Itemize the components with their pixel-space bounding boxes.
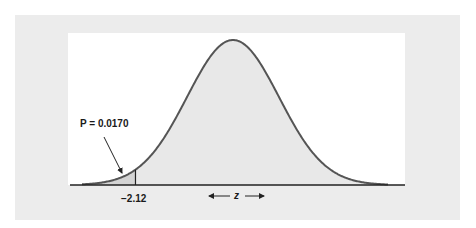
normal-curve-figure: P = 0.0170 −2.12 z: [0, 0, 476, 228]
p-value-label: P = 0.0170: [80, 118, 129, 129]
pointer-arrow-icon: [104, 137, 122, 173]
left-tail-shaded-area: [82, 170, 135, 185]
z-value-tick-label: −2.12: [121, 193, 147, 204]
axis-label-z: z: [233, 190, 239, 201]
curve-fill: [82, 40, 388, 185]
